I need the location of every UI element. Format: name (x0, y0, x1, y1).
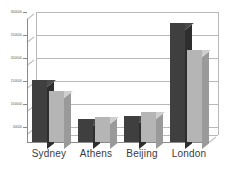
bar-front-face (32, 80, 47, 142)
y-axis-line (27, 19, 28, 142)
bar-chart: 300000 250000 200000 150000 100000 50000 (0, 0, 226, 180)
bar-front-face (95, 117, 110, 142)
bar-side-face (64, 93, 71, 149)
bar-beijing-series2 (141, 112, 156, 142)
x-axis-line (27, 142, 209, 143)
bar-athens-series2 (95, 117, 110, 142)
bar-sydney-series1 (32, 80, 47, 142)
bar-side-face (202, 52, 209, 149)
gridline (36, 12, 218, 13)
bar-beijing-series1 (124, 116, 139, 142)
bar-front-face (78, 119, 93, 142)
bar-athens-series1 (78, 119, 93, 142)
plot-right-edge (218, 12, 219, 135)
bar-london-series2 (187, 50, 202, 142)
bar-front-face (187, 50, 202, 142)
bar-side-face (156, 114, 163, 149)
bar-sydney-series2 (49, 91, 64, 142)
bar-london-series1 (170, 23, 185, 142)
x-tick-label-london: London (160, 148, 218, 159)
bar-front-face (49, 91, 64, 142)
bar-front-face (141, 112, 156, 142)
floor-depth-line (209, 137, 217, 143)
bar-front-face (170, 23, 185, 142)
bar-front-face (124, 116, 139, 142)
